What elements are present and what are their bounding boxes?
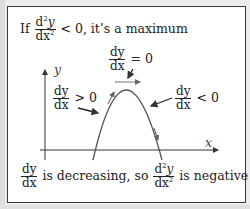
peak-label: dydx = 0 bbox=[108, 46, 153, 72]
second-derivative-fraction: d2y dx2 bbox=[35, 16, 56, 42]
right-pointer bbox=[151, 98, 172, 106]
increasing-label: dydx > 0 bbox=[52, 85, 97, 111]
decreasing-label: dydx < 0 bbox=[174, 85, 219, 111]
footer-second-derivative-fraction: d2y dx2 bbox=[153, 163, 174, 189]
y-axis-label: y bbox=[54, 64, 61, 77]
title: If d2y dx2 < 0, it’s a maximum bbox=[20, 16, 188, 42]
first-derivative-fraction: dydx bbox=[21, 163, 37, 189]
footer-text: dydx is decreasing, so d2y dx2 is negati… bbox=[20, 163, 248, 189]
x-axis-label: x bbox=[205, 137, 212, 150]
